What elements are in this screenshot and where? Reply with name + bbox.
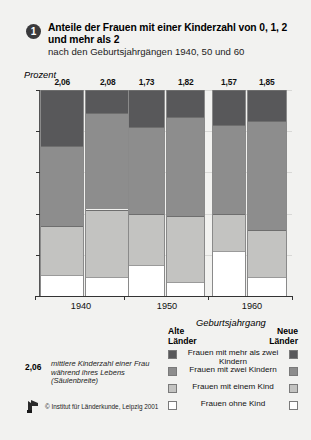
- bar-segment: [129, 265, 164, 296]
- legend-row[interactable]: Frauen mit einem Kind: [168, 383, 298, 397]
- bar-1960-neue: [247, 90, 287, 296]
- legend-group-alte-line2: Länder: [168, 336, 197, 346]
- bar-1940-neue: [85, 90, 130, 296]
- bar-segment: [86, 277, 129, 296]
- bar-segment: [167, 216, 204, 282]
- legend-group-alte-line1: Alte: [168, 326, 184, 336]
- legend-group-alte-laender: Alte Länder: [168, 327, 197, 346]
- header: 1 Anteile der Frauen mit einer Kinderzah…: [26, 22, 294, 58]
- legend-row[interactable]: Frauen mit zwei Kindern: [168, 366, 298, 380]
- page-title: Anteile der Frauen mit einer Kinderzahl …: [48, 22, 294, 45]
- legend-group-neue-laender: Neue Länder: [269, 327, 298, 346]
- bar-segment: [167, 117, 204, 216]
- bar-segment: [213, 214, 245, 251]
- bar-width-value-label: 1,85: [247, 77, 287, 87]
- bar-segment: [86, 90, 129, 113]
- bar-1940-alte: [40, 90, 84, 296]
- legend-swatch-alte-laender: [168, 367, 177, 376]
- x-axis-tick-label: 1940: [51, 301, 111, 311]
- x-axis-tick: [35, 296, 36, 300]
- bar-width-value-label: 1,57: [212, 77, 246, 87]
- legend-label: Frauen ohne Kind: [181, 400, 285, 409]
- legend-label: Frauen mit zwei Kindern: [181, 366, 285, 375]
- bar-1950-neue: [166, 90, 205, 296]
- bar-segment: [41, 90, 83, 146]
- bar-segment: [213, 90, 245, 125]
- legend-swatch-neue-laender: [289, 384, 298, 393]
- bar-segment: [213, 125, 245, 214]
- x-axis-line: [35, 296, 293, 297]
- legend-row[interactable]: Frauen ohne Kind: [168, 400, 298, 414]
- x-axis-tick: [292, 296, 293, 300]
- bar-segment: [248, 277, 286, 296]
- number-badge: 1: [26, 24, 41, 39]
- footnote: 2,06 mittlere Kinderzahl einer Frau währ…: [25, 360, 165, 386]
- page-subtitle: nach den Geburtsjahrgängen 1940, 50 und …: [48, 46, 294, 58]
- bar-segment: [248, 90, 286, 121]
- copyright: © Institut für Länderkunde, Leipzig 2001: [25, 398, 175, 416]
- legend-label: Frauen mit mehr als zwei Kindern: [181, 349, 285, 367]
- legend-swatch-neue-laender: [289, 350, 298, 359]
- legend-group-neue-line1: Neue: [277, 326, 298, 336]
- bar-width-value-label: 1,82: [166, 77, 205, 87]
- bar-segment: [248, 230, 286, 277]
- legend-swatch-neue-laender: [289, 401, 298, 410]
- bar-segment: [41, 146, 83, 226]
- institute-logo-icon: [25, 398, 41, 414]
- bar-segment: [167, 90, 204, 117]
- bar-width-value-label: 2,08: [85, 77, 130, 87]
- bar-segment: [129, 90, 164, 127]
- x-axis-tick-label: 1950: [137, 301, 197, 311]
- x-axis-tick: [208, 296, 209, 300]
- infographic-card: 1 Anteile der Frauen mit einer Kinderzah…: [0, 0, 311, 440]
- bar-width-value-label: 2,06: [40, 77, 84, 87]
- legend-swatch-alte-laender: [168, 384, 177, 393]
- bar-segment: [41, 226, 83, 275]
- bar-segment: [129, 214, 164, 266]
- footnote-text: mittlere Kinderzahl einer Frau während i…: [51, 360, 165, 386]
- copyright-text: © Institut für Länderkunde, Leipzig 2001: [45, 403, 158, 410]
- bar-segment: [41, 275, 83, 296]
- chart-plot-area: 0204060801002,062,0819401,731,8219501,57…: [40, 90, 292, 296]
- bar-1950-alte: [128, 90, 165, 296]
- bar-segment: [86, 113, 129, 210]
- x-axis-tick-label: 1960: [222, 301, 282, 311]
- bar-1960-alte: [212, 90, 246, 296]
- bar-segment: [86, 210, 129, 278]
- bar-segment: [129, 127, 164, 214]
- bar-segment: [167, 282, 204, 296]
- legend-swatch-neue-laender: [289, 367, 298, 376]
- y-axis-tick: [36, 296, 40, 297]
- legend-group-neue-line2: Länder: [269, 336, 298, 346]
- bar-segment: [248, 121, 286, 230]
- footnote-value: 2,06: [25, 362, 41, 372]
- bar-width-value-label: 1,73: [128, 77, 165, 87]
- x-axis-label: Geburtsjahrgang: [196, 317, 266, 328]
- legend-swatch-alte-laender: [168, 350, 177, 359]
- x-axis-tick: [124, 296, 125, 300]
- bar-segment: [213, 251, 245, 296]
- legend-label: Frauen mit einem Kind: [181, 383, 285, 392]
